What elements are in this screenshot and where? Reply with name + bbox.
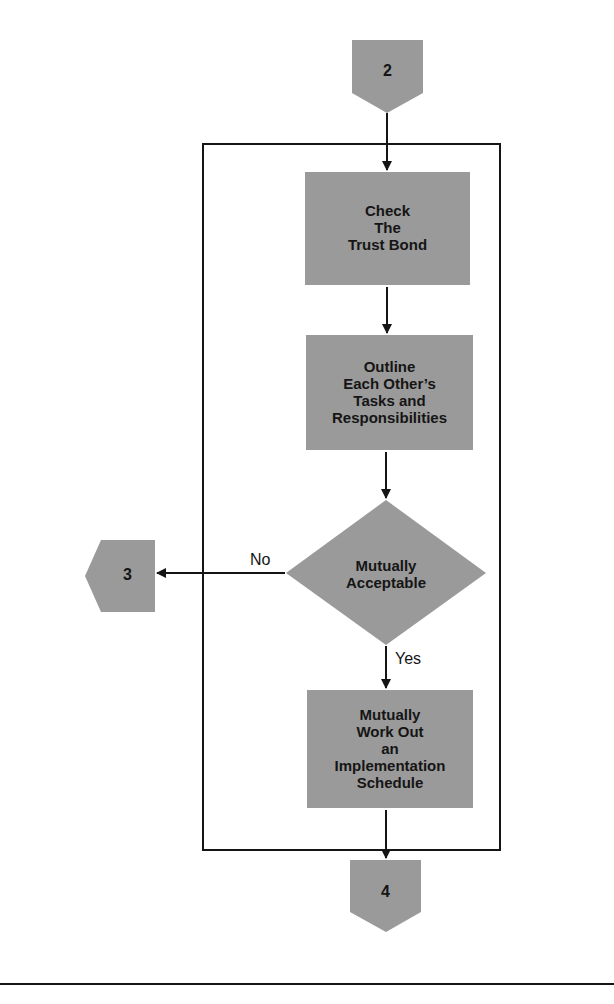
flowchart-canvas <box>0 0 614 1004</box>
connector-4-label: 4 <box>350 883 421 901</box>
text-line: Implementation <box>307 757 473 774</box>
text-line: Work Out <box>307 723 473 740</box>
text-line: Acceptable <box>306 574 466 591</box>
text-line: Mutually <box>306 557 466 574</box>
text-line: Responsibilities <box>306 409 473 426</box>
text-line: Schedule <box>307 774 473 791</box>
mutually-acceptable-text: Mutually Acceptable <box>306 557 466 591</box>
check-trust-bond-text: Check The Trust Bond <box>305 202 470 253</box>
text-line: Tasks and <box>306 392 473 409</box>
text-line: Mutually <box>307 706 473 723</box>
text-line: an <box>307 740 473 757</box>
outline-tasks-text: Outline Each Other’s Tasks and Responsib… <box>306 358 473 426</box>
connector-2-label: 2 <box>352 62 423 80</box>
text-line: The <box>305 219 470 236</box>
text-line: Each Other’s <box>306 375 473 392</box>
text-line: Check <box>305 202 470 219</box>
connector-3-label: 3 <box>100 566 155 584</box>
text-line: Trust Bond <box>305 236 470 253</box>
edge-label-no: No <box>250 551 270 569</box>
text-line: Outline <box>306 358 473 375</box>
edge-label-yes: Yes <box>395 650 421 668</box>
work-out-schedule-text: Mutually Work Out an Implementation Sche… <box>307 706 473 791</box>
